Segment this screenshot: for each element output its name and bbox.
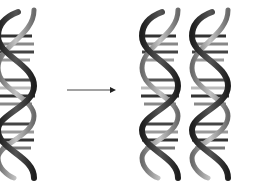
daughter-dna-helix-2-icon <box>191 10 229 178</box>
dna-replication-diagram <box>0 0 254 187</box>
arrow-right-icon <box>67 87 116 93</box>
parent-dna-helix-icon <box>0 10 35 178</box>
daughter-dna-helix-1-icon <box>141 10 179 178</box>
